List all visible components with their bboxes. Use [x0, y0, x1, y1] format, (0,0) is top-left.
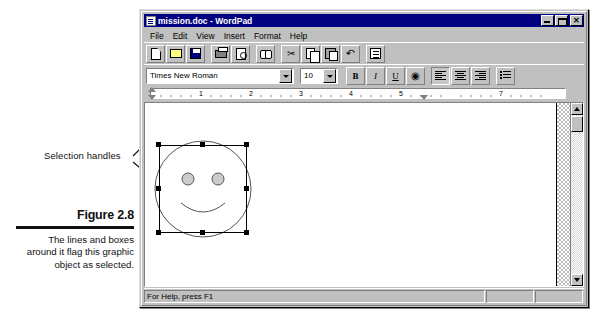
- paste-button[interactable]: [321, 45, 340, 63]
- menu-item-file[interactable]: File: [146, 30, 169, 42]
- font-size-value: 10: [301, 71, 313, 80]
- selection-handle-bottom-center[interactable]: [200, 230, 205, 235]
- bold-button[interactable]: B: [346, 67, 365, 85]
- bullet-list-icon: [500, 71, 511, 80]
- font-name-value: Times New Roman: [147, 71, 218, 80]
- document-area[interactable]: [144, 102, 584, 287]
- open-button[interactable]: [166, 45, 185, 63]
- format-toolbar: Times New Roman 10 B I U ◉: [144, 64, 584, 86]
- bullets-button[interactable]: [496, 67, 515, 85]
- menu-item-view[interactable]: View: [192, 30, 219, 42]
- selection-frame: [159, 145, 247, 233]
- date-time-icon: [369, 48, 382, 60]
- figure-number: Figure 2.8: [16, 208, 134, 224]
- selection-handle-top-left[interactable]: [156, 142, 161, 147]
- print-preview-button[interactable]: [231, 45, 250, 63]
- menu-bar: File Edit View Insert Format Help: [144, 29, 584, 42]
- figure-divider: [16, 226, 134, 229]
- figure-caption-text: The lines and boxes around it flag this …: [16, 234, 134, 271]
- selection-handle-bottom-right[interactable]: [244, 230, 249, 235]
- binoculars-icon: [259, 48, 272, 60]
- vertical-scrollbar[interactable]: [570, 103, 583, 286]
- font-size-combobox[interactable]: 10: [300, 68, 338, 84]
- print-button[interactable]: [211, 45, 230, 63]
- clipboard-paste-icon: [324, 48, 337, 60]
- font-name-combobox[interactable]: Times New Roman: [146, 68, 294, 84]
- text-color-button[interactable]: ◉: [406, 67, 425, 85]
- selection-handle-middle-right[interactable]: [244, 186, 249, 191]
- copy-icon: [304, 48, 317, 60]
- selection-handle-top-center[interactable]: [200, 142, 205, 147]
- align-center-button[interactable]: [451, 67, 470, 85]
- bold-icon: B: [352, 71, 358, 81]
- ruler-number-7: 7: [499, 90, 503, 97]
- smiley-face-graphic[interactable]: [159, 145, 247, 233]
- close-icon: ✕: [573, 16, 580, 25]
- page-edge-shading: [556, 103, 570, 286]
- window-inner-frame: mission.doc - WordPad ✕ File Edit View I…: [141, 11, 587, 306]
- scrollbar-thumb[interactable]: [571, 116, 583, 132]
- ruler-track: 1 2 3 4 5 7: [150, 88, 566, 99]
- menu-item-edit[interactable]: Edit: [169, 30, 193, 42]
- floppy-disk-icon: [189, 48, 202, 60]
- print-preview-icon: [234, 48, 247, 60]
- document-icon: [146, 16, 156, 26]
- status-bar: For Help, press F1: [144, 288, 584, 303]
- printer-icon: [214, 48, 227, 60]
- selection-handle-top-right[interactable]: [244, 142, 249, 147]
- menu-item-insert[interactable]: Insert: [220, 30, 250, 42]
- ruler-number-1: 1: [199, 90, 203, 97]
- status-cell-2: [535, 290, 583, 303]
- chevron-down-icon[interactable]: [323, 69, 336, 83]
- minimize-button[interactable]: [541, 15, 554, 26]
- color-palette-icon: ◉: [411, 70, 420, 81]
- right-indent-marker[interactable]: [420, 95, 428, 100]
- align-right-icon: [475, 71, 486, 80]
- align-left-button[interactable]: [431, 67, 450, 85]
- wordpad-window: mission.doc - WordPad ✕ File Edit View I…: [139, 9, 589, 308]
- selection-handles-annotation: Selection handles: [44, 150, 121, 161]
- selection-handle-bottom-left[interactable]: [156, 230, 161, 235]
- close-button[interactable]: ✕: [570, 15, 583, 26]
- figure-page: Selection handles Figure 2.8 The lines a…: [0, 0, 596, 324]
- align-center-icon: [455, 71, 466, 80]
- scroll-up-button[interactable]: [571, 103, 583, 115]
- title-bar[interactable]: mission.doc - WordPad ✕: [144, 14, 584, 27]
- document-page[interactable]: [145, 103, 570, 286]
- horizontal-ruler[interactable]: 1 2 3 4 5 7: [144, 86, 584, 102]
- italic-icon: I: [374, 71, 377, 81]
- undo-arrow-icon: ↷: [344, 48, 357, 60]
- chevron-down-icon[interactable]: [279, 69, 292, 83]
- align-left-icon: [435, 71, 446, 80]
- underline-button[interactable]: U: [386, 67, 405, 85]
- menu-item-help[interactable]: Help: [286, 30, 312, 42]
- new-button[interactable]: [146, 45, 165, 63]
- ruler-number-2: 2: [249, 90, 253, 97]
- status-message-panel: For Help, press F1: [144, 290, 485, 303]
- date-time-button[interactable]: [366, 45, 385, 63]
- align-right-button[interactable]: [471, 67, 490, 85]
- maximize-button[interactable]: [555, 15, 568, 26]
- ruler-number-5: 5: [399, 90, 403, 97]
- first-line-indent-marker[interactable]: [148, 87, 156, 92]
- ruler-number-4: 4: [349, 90, 353, 97]
- copy-button[interactable]: [301, 45, 320, 63]
- underline-icon: U: [392, 71, 399, 81]
- cut-button[interactable]: ✂: [281, 45, 300, 63]
- scroll-down-button[interactable]: [571, 274, 583, 286]
- selection-handle-middle-left[interactable]: [156, 186, 161, 191]
- find-button[interactable]: [256, 45, 275, 63]
- status-text: For Help, press F1: [147, 292, 213, 301]
- scissors-icon: ✂: [284, 48, 297, 60]
- standard-toolbar: ✂ ↷: [144, 42, 584, 64]
- new-document-icon: [149, 48, 162, 60]
- menu-item-format[interactable]: Format: [250, 30, 286, 42]
- left-indent-marker[interactable]: [148, 95, 156, 100]
- undo-button[interactable]: ↷: [341, 45, 360, 63]
- italic-button[interactable]: I: [366, 67, 385, 85]
- window-title: mission.doc - WordPad: [158, 16, 540, 26]
- save-button[interactable]: [186, 45, 205, 63]
- figure-caption-block: Figure 2.8 The lines and boxes around it…: [16, 208, 134, 271]
- status-cell-1: [486, 290, 534, 303]
- ruler-number-3: 3: [299, 90, 303, 97]
